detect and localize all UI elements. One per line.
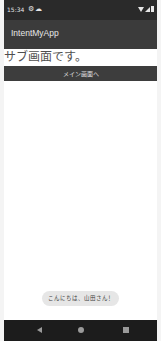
cloud-icon: ☁ [35, 5, 42, 13]
status-icons [138, 6, 154, 12]
sub-screen-label: サブ画面です。 [4, 50, 87, 64]
wifi-icon [138, 7, 144, 12]
status-bar: 15:34 ⚙ ☁ [4, 0, 157, 20]
go-to-main-button[interactable]: メイン画面へ [4, 66, 157, 81]
gear-icon: ⚙ [28, 5, 34, 13]
content-area [4, 81, 157, 320]
signal-icon [145, 7, 150, 12]
app-title: IntentMyApp [11, 28, 59, 38]
battery-icon [151, 6, 154, 12]
app-bar: IntentMyApp [4, 20, 157, 49]
navigation-bar [4, 320, 157, 341]
recents-icon[interactable] [123, 327, 129, 333]
status-time: 15:34 [7, 6, 24, 13]
toast-message: こんにちは、山田さん！ [42, 291, 119, 306]
home-icon[interactable] [78, 327, 84, 333]
back-icon[interactable] [37, 327, 42, 333]
device-screen: 15:34 ⚙ ☁ IntentMyApp サブ画面です。 メイン画面へ こんに… [4, 0, 157, 341]
